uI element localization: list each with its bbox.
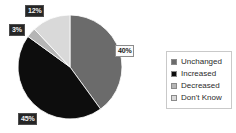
- data-label-decreased: 3%: [9, 24, 25, 36]
- data-label-unchanged: 40%: [115, 45, 134, 57]
- pie-plot-area: 40% 45% 3% 12%: [0, 0, 150, 133]
- legend-item-label: Unchanged: [181, 57, 222, 67]
- legend-swatch-icon: [171, 59, 177, 65]
- legend-item-label: Don't Know: [181, 93, 222, 103]
- pie-slice-group: [18, 15, 122, 119]
- legend-item-unchanged[interactable]: Unchanged: [171, 56, 228, 68]
- legend-swatch-icon: [171, 95, 177, 101]
- legend-item-decreased[interactable]: Decreased: [171, 80, 228, 92]
- legend-swatch-icon: [171, 83, 177, 89]
- legend-item-don-t-know[interactable]: Don't Know: [171, 92, 228, 104]
- chart-legend: UnchangedIncreasedDecreasedDon't Know: [166, 51, 232, 109]
- legend-item-increased[interactable]: Increased: [171, 68, 228, 80]
- legend-item-label: Increased: [181, 69, 216, 79]
- data-label-increased: 45%: [18, 113, 37, 125]
- data-label-dont-know: 12%: [25, 5, 44, 17]
- legend-swatch-icon: [171, 71, 177, 77]
- pie-chart: 40% 45% 3% 12% UnchangedIncreasedDecreas…: [0, 0, 236, 133]
- legend-item-label: Decreased: [181, 81, 220, 91]
